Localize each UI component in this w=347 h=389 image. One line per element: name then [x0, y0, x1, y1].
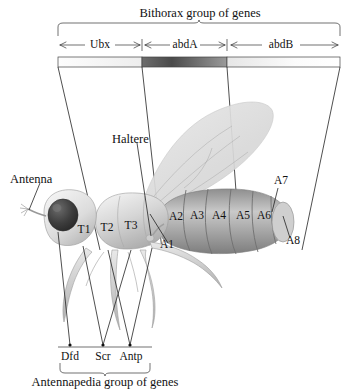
gene-label-ubx: Ubx	[90, 38, 110, 50]
fly-antenna	[20, 204, 46, 216]
antennapedia-title: Antennapedia group of genes	[32, 375, 179, 389]
gene-segment-ubx: Ubx	[60, 38, 140, 50]
gene-label-scr: Scr	[95, 350, 111, 362]
leader-scr-a	[83, 246, 103, 345]
gene-bar-abda	[142, 57, 227, 67]
bithorax-bracket	[58, 20, 340, 36]
gene-bar-ubx	[58, 57, 142, 67]
diagram-canvas: Bithorax group of genes Ubx abdA	[0, 0, 347, 389]
label-haltere: Haltere	[112, 132, 149, 146]
fly-illustration	[20, 102, 294, 330]
fly-legs	[63, 242, 222, 330]
tick-scr	[101, 343, 104, 346]
gene-axis-arrows: Ubx abdA abdB	[60, 38, 338, 51]
fly-head	[44, 190, 96, 246]
bithorax-title: Bithorax group of genes	[139, 6, 260, 20]
tick-antp	[128, 343, 131, 346]
label-a4: A4	[212, 209, 226, 221]
gene-label-abda: abdA	[173, 38, 199, 50]
label-t3: T3	[125, 219, 138, 231]
tick-dfd	[68, 343, 71, 346]
gene-segment-abdb: abdB	[231, 38, 338, 50]
leader-antenna	[29, 183, 40, 210]
antennapedia-axis: Dfd Scr Antp	[58, 343, 152, 363]
label-a6: A6	[257, 209, 271, 221]
fly-eye	[48, 199, 78, 231]
gene-bar	[58, 57, 340, 67]
gene-bar-abdb	[227, 57, 340, 67]
gene-segment-abda: abdA	[145, 38, 225, 50]
label-a1: A1	[160, 238, 174, 250]
label-a5: A5	[236, 209, 250, 221]
label-a8: A8	[286, 234, 300, 246]
gene-label-dfd: Dfd	[61, 350, 79, 362]
leader-antp-b	[130, 248, 152, 345]
label-a2: A2	[169, 210, 183, 222]
gene-label-abdb: abdB	[269, 38, 294, 50]
hox-gene-fly-diagram: Bithorax group of genes Ubx abdA	[0, 0, 347, 389]
label-antenna: Antenna	[10, 172, 53, 186]
label-a3: A3	[190, 209, 204, 221]
label-t1: T1	[78, 223, 91, 235]
gene-label-antp: Antp	[120, 350, 143, 363]
label-a7: A7	[274, 174, 288, 186]
label-t2: T2	[101, 221, 114, 233]
